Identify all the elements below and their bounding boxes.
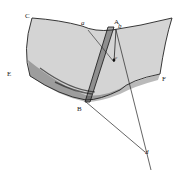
label-a: a: [81, 20, 85, 27]
label-B: B: [77, 106, 82, 113]
diagram-canvas: [0, 0, 174, 172]
label-b: b: [118, 23, 122, 30]
label-E: E: [7, 71, 11, 78]
label-C: C: [25, 13, 30, 20]
label-c: c: [115, 55, 117, 60]
label-d: d: [145, 149, 149, 156]
label-F: F: [162, 76, 166, 83]
